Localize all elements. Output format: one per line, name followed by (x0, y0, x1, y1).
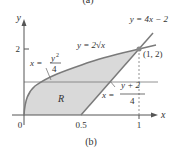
region-diagram: (a) y x 0 0.5 1 2 y = 4x − 2 y = 2√x (1,… (0, 0, 176, 153)
line-equation-label: y = 4x − 2 (129, 14, 169, 24)
top-caption: (a) (82, 0, 93, 6)
y-axis-arrow-icon (22, 19, 27, 26)
y-axis-label: y (16, 12, 22, 23)
parabola-lhs: x = (29, 58, 42, 68)
intersection-point (137, 47, 142, 52)
point-label: (1, 2) (143, 49, 163, 59)
sqrt-equation-label: y = 2√x (76, 40, 105, 50)
parabola-denominator: 4 (52, 64, 57, 74)
y-tick-label-2: 2 (16, 44, 21, 54)
line-inverse-numerator: y + 2 (120, 80, 141, 90)
parabola-numerator: y (50, 53, 55, 63)
region-label: R (57, 93, 64, 104)
parabola-exponent: 2 (56, 52, 59, 58)
x-axis-arrow-icon (151, 113, 158, 118)
x-tick-label-1: 1 (137, 120, 142, 130)
origin-label: 0 (18, 120, 23, 130)
x-tick-label-0.5: 0.5 (75, 120, 87, 130)
figure-caption: (b) (85, 136, 97, 148)
line-inverse-denominator: 4 (130, 96, 135, 106)
x-axis-label: x (160, 109, 166, 120)
line-inverse-lhs: x = (101, 90, 114, 100)
